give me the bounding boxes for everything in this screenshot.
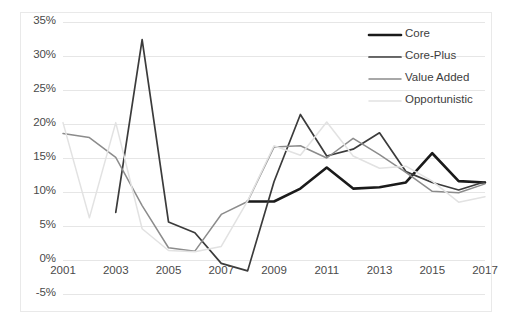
y-axis-tick-label: 5%: [40, 218, 56, 230]
legend-label-core: Core: [405, 27, 430, 39]
x-axis-tick-label: 2007: [195, 264, 247, 276]
legend-swatches: [369, 35, 401, 101]
line-chart: 35%30%25%20%15%10%5%0%-5% 20012003200520…: [0, 0, 505, 327]
legend-label-value-added: Value Added: [405, 71, 469, 83]
y-axis-tick-label: 20%: [33, 116, 56, 128]
chart-plot-frame: 35%30%25%20%15%10%5%0%-5% 20012003200520…: [20, 12, 492, 312]
legend-label-opportunistic: Opportunistic: [405, 93, 473, 105]
x-axis-tick-label: 2001: [37, 264, 89, 276]
y-axis-tick-label: 10%: [33, 184, 56, 196]
x-axis-tick-label: 2015: [406, 264, 458, 276]
legend-label-core-plus: Core-Plus: [405, 49, 456, 61]
x-axis-tick-label: 2009: [248, 264, 300, 276]
gridlines: [63, 22, 485, 294]
y-axis-tick-label: -5%: [36, 286, 56, 298]
x-axis-tick-label: 2003: [90, 264, 142, 276]
y-axis-tick-label: 0%: [40, 252, 56, 264]
y-axis-tick-label: 25%: [33, 82, 56, 94]
x-axis-tick-label: 2017: [459, 264, 505, 276]
y-axis-tick-label: 35%: [33, 14, 56, 26]
y-axis-tick-label: 15%: [33, 150, 56, 162]
x-axis-tick-label: 2011: [301, 264, 353, 276]
y-axis-tick-label: 30%: [33, 48, 56, 60]
x-axis-tick-label: 2013: [354, 264, 406, 276]
x-axis-tick-label: 2005: [143, 264, 195, 276]
